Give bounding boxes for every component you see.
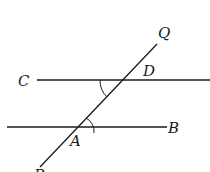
transversal-pq (40, 44, 157, 167)
label-b: B (167, 119, 179, 137)
label-c: C (18, 72, 30, 90)
label-d: D (142, 62, 155, 80)
angle-mark-a (86, 118, 94, 133)
angle-mark-d (100, 80, 107, 97)
label-p: P (33, 166, 45, 172)
label-q: Q (158, 24, 170, 42)
geometry-diagram: Q C D A B P (0, 0, 210, 172)
label-a: A (68, 132, 81, 150)
